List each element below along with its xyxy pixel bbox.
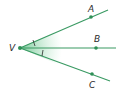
label-a: A <box>87 4 94 14</box>
point-b <box>94 46 98 50</box>
label-c: C <box>89 80 96 90</box>
point-a <box>89 15 93 19</box>
point-v <box>18 46 22 50</box>
label-v: V <box>9 43 16 53</box>
label-b: B <box>94 34 100 44</box>
ray-vc <box>20 48 110 81</box>
angle-bisector-diagram: V A B C <box>0 0 120 93</box>
point-c <box>90 72 94 76</box>
